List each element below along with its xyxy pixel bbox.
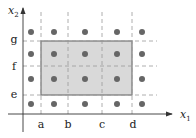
diagram-canvas: x1 x2 a b c d e f g	[0, 0, 196, 138]
x-axis-label: x1	[180, 108, 191, 123]
lattice-point	[51, 101, 57, 107]
highlight-region	[41, 41, 132, 95]
lattice-point	[28, 101, 34, 107]
lattice-point	[51, 51, 57, 57]
lattice-point	[114, 29, 120, 35]
lattice-point	[82, 29, 88, 35]
y-tick-e: e	[11, 88, 18, 101]
lattice-point	[28, 51, 34, 57]
lattice-point	[51, 29, 57, 35]
lattice-point	[114, 51, 120, 57]
lattice-point	[114, 101, 120, 107]
lattice-point	[139, 29, 145, 35]
lattice-point	[139, 76, 145, 82]
lattice-point	[82, 76, 88, 82]
lattice-point	[51, 76, 57, 82]
lattice-point	[82, 51, 88, 57]
y-axis-label: x2	[8, 4, 19, 19]
y-tick-f: f	[12, 60, 17, 73]
x-tick-d: d	[129, 118, 136, 131]
lattice-point	[139, 51, 145, 57]
lattice-point	[82, 101, 88, 107]
y-tick-g: g	[10, 33, 17, 46]
lattice-point	[28, 29, 34, 35]
lattice-point	[139, 101, 145, 107]
lattice-point	[28, 76, 34, 82]
x-tick-b: b	[64, 118, 71, 131]
x-tick-a: a	[38, 118, 45, 131]
x-tick-c: c	[99, 118, 105, 131]
lattice-point	[114, 76, 120, 82]
